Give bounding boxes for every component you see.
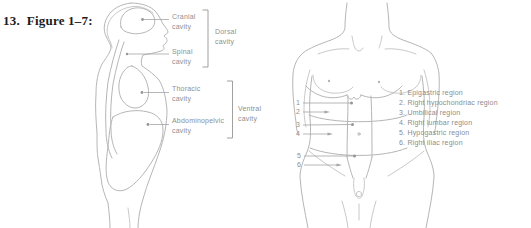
region-marker-4: 4	[296, 130, 300, 138]
abdominopelvic-cavity-outline	[106, 111, 163, 191]
body-outline-front	[131, 3, 168, 228]
neck-muscle-right	[379, 36, 382, 48]
label-cranial-cavity: Cranial cavity	[172, 12, 196, 31]
marker1-pointer-dot	[350, 102, 353, 105]
pubic-line-right	[366, 157, 372, 178]
marker2-arrowhead	[325, 110, 331, 113]
sternal-notch	[355, 48, 363, 51]
region-line-horizontal-upper	[309, 115, 407, 122]
nipple-left	[328, 80, 330, 82]
genital-tip	[356, 191, 361, 196]
thoracic-cavity-outline	[119, 66, 149, 108]
inner-thigh-left	[342, 201, 348, 228]
region-marker-6: 6	[297, 161, 301, 169]
document-figure: 13. Figure 1–7:	[0, 0, 531, 228]
body-outline-back	[96, 3, 131, 228]
marker3-leader-line	[303, 125, 351, 126]
legend-item-lumbar: 4. Right lumbar region	[399, 118, 498, 128]
regions-legend: 1. Epigastric region 2. Right hypochondr…	[399, 88, 498, 148]
far-thigh-line	[128, 208, 130, 228]
region-marker-1: 1	[296, 99, 300, 107]
region-marker-2: 2	[296, 108, 300, 116]
spinal-canal-inner	[111, 42, 124, 154]
armpit-crease-left	[304, 70, 310, 127]
neck-shoulder-arm-left	[293, 3, 347, 134]
label-spinal-cavity: Spinal cavity	[172, 47, 193, 66]
navel-mark	[358, 133, 360, 135]
marker4-arrowhead	[328, 132, 334, 135]
genital-outline	[354, 178, 365, 198]
abdominopelvic-pointer-dot	[147, 123, 150, 126]
dorsal-cavity-bracket	[203, 10, 209, 67]
label-abdominopelvic-cavity: Abdominopelvic cavity	[172, 116, 224, 135]
clavicle-left	[318, 49, 349, 54]
costal-margin-notch	[347, 95, 361, 99]
pectoral-left	[313, 75, 353, 93]
region-line-vertical-left	[347, 96, 348, 157]
groin-line-right	[388, 151, 424, 176]
pubic-line-left	[347, 157, 353, 178]
cranial-pointer-dot	[141, 18, 144, 21]
marker6-arrowhead	[337, 163, 343, 166]
region-line-vertical-right	[371, 96, 372, 157]
inner-thigh-right	[370, 201, 376, 228]
thoracic-pointer-dot	[141, 91, 144, 94]
region-marker-5: 5	[297, 152, 301, 160]
legend-item-epigastric: 1. Epigastric region	[399, 88, 498, 98]
marker3-pointer-dot	[351, 123, 354, 126]
ventral-cavity-bracket	[227, 81, 233, 138]
marker5-pointer-dot	[353, 155, 356, 158]
legend-item-hypochondriac: 2. Right hypochondriac region	[399, 98, 498, 108]
label-thoracic-cavity: Thoracic cavity	[172, 84, 200, 103]
legend-item-hypogastric: 5. Hypogastric region	[399, 128, 498, 138]
legend-item-umbilical: 3. Umbilical region	[399, 108, 498, 118]
clavicle-right	[385, 49, 416, 54]
spinal-pointer-dot	[126, 53, 128, 55]
region-line-horizontal-lower	[310, 148, 407, 156]
nipple-right	[378, 81, 380, 83]
cranial-cavity-outline	[120, 8, 154, 34]
legend-item-iliac: 6. Right iliac region	[399, 138, 498, 148]
label-ventral-cavity: Ventral cavity	[238, 104, 261, 123]
neck-muscle-left	[352, 36, 355, 48]
region-marker-3: 3	[296, 121, 300, 129]
skull-inner-line	[107, 6, 153, 48]
label-dorsal-cavity: Dorsal cavity	[215, 27, 236, 46]
